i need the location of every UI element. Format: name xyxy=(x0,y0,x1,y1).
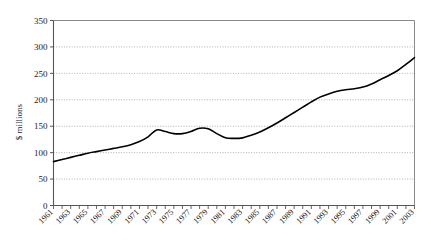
y-tick-label: 200 xyxy=(34,95,48,105)
y-tick-label: 100 xyxy=(34,148,48,158)
y-axis-title: $ millions xyxy=(14,103,24,140)
line-chart-figure: 050100150200250300350 196119631965196719… xyxy=(0,0,431,248)
chart-svg: 050100150200250300350 196119631965196719… xyxy=(0,0,431,248)
y-tick-label: 300 xyxy=(34,42,48,52)
y-tick-label: 350 xyxy=(34,16,48,26)
y-tick-label: 250 xyxy=(34,69,48,79)
y-tick-label: 50 xyxy=(39,174,49,184)
y-tick-label: 150 xyxy=(34,121,48,131)
